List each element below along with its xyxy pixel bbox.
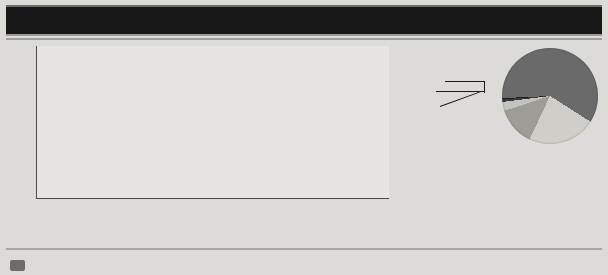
- divider-top: [6, 38, 602, 40]
- leader-australia: [445, 81, 485, 82]
- bar-series: [37, 46, 389, 198]
- pie-panel: [398, 43, 604, 245]
- caption-bar: [10, 256, 600, 274]
- divider-bottom: [6, 248, 602, 250]
- chart-title-banner: [6, 5, 602, 36]
- leader-south-america: [440, 92, 480, 107]
- bar-chart: [8, 43, 393, 243]
- infographic-poster: [0, 0, 608, 275]
- pie-label-asia: [508, 104, 542, 114]
- graph-badge-icon: [10, 260, 25, 271]
- plot-area: [36, 46, 389, 199]
- pie-chart: [398, 46, 604, 150]
- pie-label-europe: [538, 74, 586, 84]
- x-axis-labels: [36, 201, 388, 259]
- leader-australia-v: [484, 81, 485, 93]
- pie-label-north-america: [538, 116, 590, 135]
